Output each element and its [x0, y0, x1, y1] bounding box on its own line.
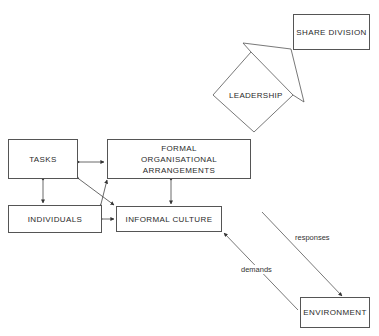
informal-culture-box: INFORMAL CULTURE	[116, 206, 222, 232]
tasks-informal-arrow	[79, 179, 114, 205]
share-division-box: SHARE DIVISION	[293, 14, 370, 50]
individuals-box: INDIVIDUALS	[8, 205, 102, 233]
demands-label: demands	[240, 265, 273, 274]
responses-arrow	[262, 212, 342, 296]
responses-label: responses	[294, 233, 331, 242]
environment-box: ENVIRONMENT	[300, 297, 370, 328]
tasks-box: TASKS	[8, 139, 78, 179]
individuals-formal-arrow	[101, 180, 107, 204]
leadership-label: LEADERSHIP	[229, 91, 283, 100]
formal-organisational-arrangements-box: FORMAL ORGANISATIONAL ARRANGEMENTS	[107, 139, 251, 179]
